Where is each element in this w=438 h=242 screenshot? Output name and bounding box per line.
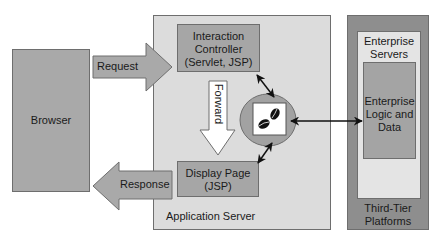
response-label: Response	[120, 178, 170, 191]
forward-label: Forward	[212, 84, 225, 124]
request-label: Request	[97, 60, 138, 73]
bean-component	[240, 94, 296, 146]
